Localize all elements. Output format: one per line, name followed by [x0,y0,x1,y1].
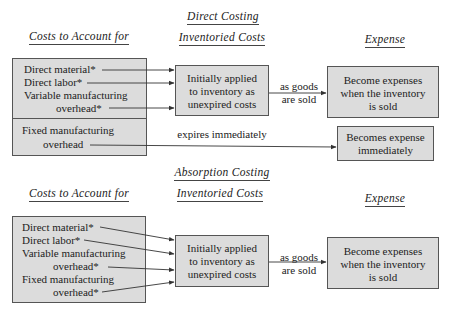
abs-inventory-line-1: Initially applied [175,242,269,255]
period-expense-line-2: immediately [337,144,434,157]
abs-fixed-overhead-label: overhead* [53,286,99,299]
period-expense-line-1: Becomes expense [337,131,434,144]
abs-sold-label-1: as goods [274,251,324,264]
direct-material-label: Direct material* [24,63,96,76]
variable-mfg-label: Variable manufacturing [24,89,128,102]
direct-costing-title: Direct Costing [178,10,268,25]
absorption-costs-to-account-header: Costs to Account for [12,187,146,202]
direct-expense-line-1: Become expenses [327,74,439,87]
direct-inventoried-costs-header: Inventoried Costs [172,31,272,46]
direct-inventory-line-1: Initially applied [175,72,269,85]
fixed-mfg-label: Fixed manufacturing [22,124,114,137]
direct-expense-line-2: when the inventory [327,87,439,100]
abs-expense-line-2: when the inventory [327,258,439,271]
direct-labor-label: Direct labor* [24,76,82,89]
abs-variable-overhead-label: overhead* [53,260,99,273]
abs-expense-line-1: Become expenses [327,245,439,258]
abs-sold-label-2: are sold [274,264,324,277]
abs-fixed-mfg-label: Fixed manufacturing [22,273,114,286]
direct-sold-label-1: as goods [274,80,324,93]
absorption-costing-title: Absorption Costing [168,166,276,181]
direct-inventory-line-2: to inventory as [175,85,269,98]
abs-inventory-line-3: unexpired costs [175,268,269,281]
abs-direct-labor-label: Direct labor* [22,234,80,247]
expires-immediately-label: expires immediately [172,128,272,141]
abs-expense-line-3: is sold [327,271,439,284]
absorption-inventoried-costs-header: Inventoried Costs [170,187,270,202]
direct-expense-line-3: is sold [327,100,439,113]
direct-expense-header: Expense [350,33,420,48]
abs-variable-mfg-label: Variable manufacturing [22,247,126,260]
abs-direct-material-label: Direct material* [22,221,94,234]
direct-sold-label-2: are sold [274,93,324,106]
direct-costs-to-account-header: Costs to Account for [12,30,146,45]
abs-inventory-line-2: to inventory as [175,255,269,268]
fixed-overhead-label: overhead [43,138,83,151]
absorption-expense-header: Expense [350,192,420,207]
variable-overhead-label: overhead* [56,102,102,115]
direct-inventory-line-3: unexpired costs [175,98,269,111]
